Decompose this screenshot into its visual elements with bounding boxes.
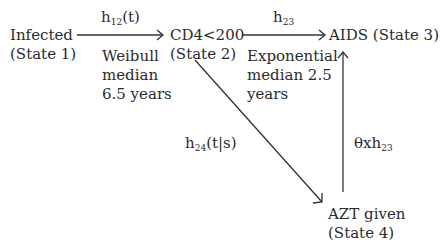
weibull-note-line-1: Weibull [102, 47, 159, 65]
hazard-theta-h23-label: θxh23 [354, 134, 393, 157]
weibull-note-line-3: 6.5 years [102, 85, 172, 103]
state-4-name: AZT given [328, 205, 405, 223]
hazard-h12-label: h12(t) [101, 8, 140, 31]
state-3-name: AIDS (State 3) [329, 26, 439, 44]
exponential-note-line-1: Exponential [247, 47, 338, 65]
state-2-name: CD4<200 [170, 26, 244, 44]
hazard-h23-label: h23 [273, 8, 294, 31]
state-1-name: Infected [10, 26, 73, 44]
state-1-label: (State 1) [10, 45, 76, 63]
state-4-label: (State 4) [328, 224, 394, 242]
exponential-note-line-3: years [247, 85, 288, 103]
hazard-h24-label: h24(t|s) [185, 134, 237, 157]
state-2-label: (State 2) [170, 45, 236, 63]
exponential-note-line-2: median 2.5 [247, 66, 332, 84]
weibull-note-line-2: median [102, 66, 158, 84]
